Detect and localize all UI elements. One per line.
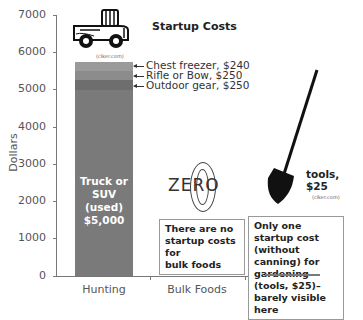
y-tick-0: 0 [2,270,46,282]
note-line: Only one startup cost [254,220,338,244]
y-tickmark [53,52,57,53]
y-tickmark [53,15,57,16]
x-label-bulk-foods: Bulk Foods [152,283,242,296]
arrow-icon [134,86,144,87]
truck-suv-label: Truck or SUV (used) $5,000 [75,175,133,227]
y-tick-1000: 1000 [2,232,46,244]
x-label-hunting: Hunting [59,283,149,296]
gardening-note: Only one startup cost (without canning) … [248,216,344,320]
bar-segment-outdoor-gear [75,80,133,90]
y-tick-2000: 2000 [2,195,46,207]
y-tick-4000: 4000 [2,121,46,133]
annotation-outdoor-gear: Outdoor gear, $250 [146,79,249,91]
y-tickmark [53,127,57,128]
note-line: barely visible here [254,292,338,316]
truck-credit: (clker.com) [96,53,124,59]
y-tick-5000: 5000 [2,83,46,95]
y-tickmark [53,89,57,90]
zero-text: ZERO [168,175,220,195]
bar-segment-rifle-or-bow [75,71,133,80]
y-tickmark [53,201,57,202]
truck-suv-label-line: Truck or [75,175,133,188]
arrow-icon [134,66,144,67]
note-line: (without canning) for [254,244,338,268]
note-line: There are no [165,223,239,235]
note-line: startup costs for [165,235,239,259]
y-tick-3000: 3000 [2,158,46,170]
truck-icon [72,8,134,52]
y-tick-6000: 6000 [2,46,46,58]
y-tickmark [53,164,57,165]
arrow-icon [134,76,144,77]
bar-segment-chest-freezer [75,62,133,71]
x-tickmark [245,276,246,280]
y-tick-7000: 7000 [2,9,46,21]
y-tickmark [53,238,57,239]
bar-gardening-tools [265,274,320,276]
bulk-foods-note: There are no startup costs for bulk food… [159,219,245,275]
tools-label: tools, $25 [306,168,363,192]
note-line: bulk foods [165,259,239,271]
truck-suv-label-line: SUV (used) [75,188,133,214]
x-tickmark [150,276,151,280]
chart-title: Startup Costs [152,20,237,33]
shovel-credit: (clker.com) [312,194,340,200]
truck-suv-label-line: $5,000 [75,214,133,227]
note-line: gardening (tools, $25)– [254,268,338,292]
